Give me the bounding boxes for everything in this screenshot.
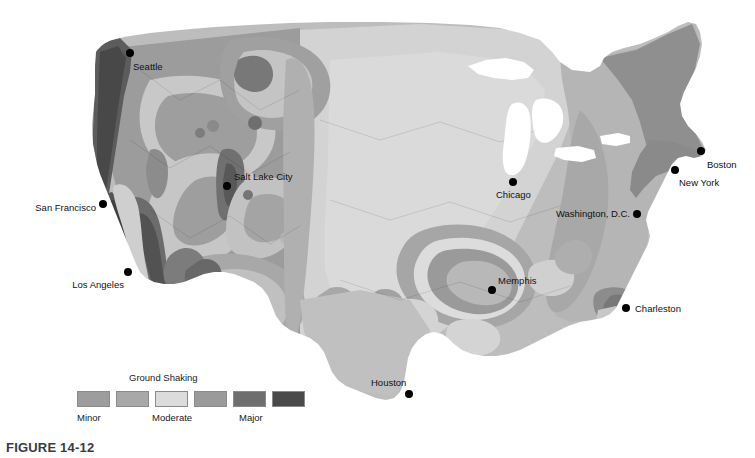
texas-gulf-light (300, 290, 430, 396)
figure-caption: FIGURE 14-12 (6, 440, 94, 455)
legend-swatch-minor-1 (77, 391, 110, 407)
legend-title: Ground Shaking (129, 372, 198, 383)
seismic-hazard-figure: SeattleSan FranciscoLos AngelesSalt Lake… (0, 0, 755, 458)
legend-swatch-row (77, 391, 305, 407)
city-dot (126, 49, 134, 57)
legend-label-major: Major (239, 412, 263, 423)
city-dot (223, 182, 231, 190)
florida-light (596, 306, 626, 346)
legend-swatch-minor-2 (116, 391, 149, 407)
legend-label-minor: Minor (77, 412, 101, 423)
city-label: Houston (371, 377, 406, 388)
city-label: Washington, D.C. (556, 208, 630, 219)
legend-swatch-major-1 (233, 391, 266, 407)
city-dot (622, 304, 630, 312)
city-label: San Francisco (35, 202, 96, 213)
legend-label-moderate: Moderate (152, 412, 192, 423)
city-label: Memphis (498, 275, 537, 286)
interior-spot-b (243, 190, 253, 200)
city-label: Charleston (635, 303, 681, 314)
legend-swatch-moderate-high (194, 391, 227, 407)
city-dot (99, 200, 107, 208)
city-marker-washington-d-c: Washington, D.C. (556, 208, 641, 219)
city-label: New York (679, 177, 719, 188)
city-marker-los-angeles: Los Angeles (72, 268, 132, 290)
southwest-spot (235, 297, 270, 327)
city-dot (697, 147, 705, 155)
city-dot (405, 390, 413, 398)
legend-scale-labels: Minor Moderate Major (77, 412, 305, 426)
interior-spot-c (207, 120, 219, 132)
city-marker-charleston: Charleston (622, 303, 681, 314)
city-label: Seattle (133, 61, 163, 72)
city-dot (124, 268, 132, 276)
map-legend: Ground Shaking Minor Moderate Major (77, 372, 305, 422)
city-label: Chicago (496, 189, 531, 200)
legend-swatch-moderate (155, 391, 188, 407)
city-dot (671, 166, 679, 174)
city-dot (488, 286, 496, 294)
city-dot (633, 210, 641, 218)
city-label: Salt Lake City (234, 171, 293, 182)
city-dot (509, 178, 517, 186)
city-marker-boston: Boston (697, 147, 737, 170)
interior-spot-a (248, 116, 262, 130)
legend-swatch-major-2 (272, 391, 305, 407)
city-marker-san-francisco: San Francisco (35, 200, 107, 213)
city-label: Boston (707, 159, 737, 170)
city-label: Los Angeles (72, 279, 124, 290)
interior-spot-e (195, 128, 205, 138)
